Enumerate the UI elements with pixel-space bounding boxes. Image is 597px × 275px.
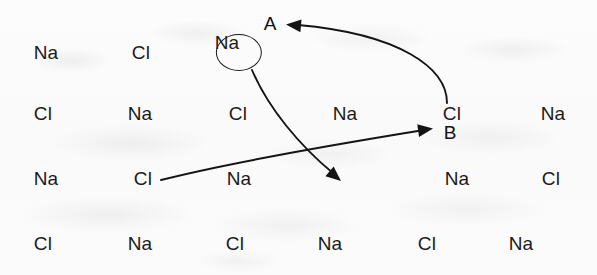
arrow-circled-na-to-vacancy (252, 70, 345, 186)
arrow-layer (0, 0, 597, 275)
arrow-lower-cl-to-b (161, 122, 434, 180)
nacl-lattice-diagram: NaClNaClNaClNaClNaNaClNaNaClClNaClNaClNa… (0, 0, 597, 275)
arrow-curve (298, 25, 447, 103)
arrow-curve (161, 130, 424, 180)
arrowhead (417, 122, 434, 137)
arrow-to-a (285, 18, 447, 103)
arrowhead (285, 18, 301, 32)
